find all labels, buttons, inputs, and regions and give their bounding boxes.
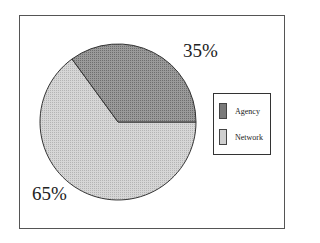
legend-label-agency: Agency xyxy=(235,107,260,116)
legend-label-network: Network xyxy=(235,133,263,142)
legend-swatch-agency xyxy=(219,103,227,119)
network-percent-label: 65% xyxy=(32,183,67,205)
agency-percent-label: 35% xyxy=(183,40,218,62)
legend-item-network: Network xyxy=(219,129,263,145)
legend-swatch-network xyxy=(219,129,227,145)
legend-item-agency: Agency xyxy=(219,103,260,119)
legend: Agency Network xyxy=(213,93,271,155)
